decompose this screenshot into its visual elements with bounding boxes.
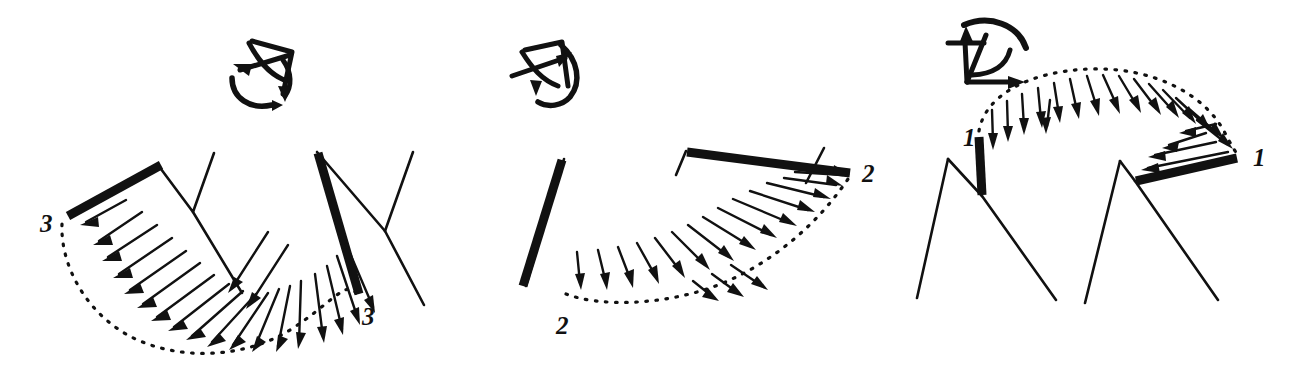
hand-drawn-rotation-figure: 3 3: [0, 0, 1298, 374]
start-label: 1: [963, 124, 976, 151]
end-label: 2: [861, 160, 875, 187]
start-label: 2: [555, 312, 569, 339]
end-label: 1: [1253, 144, 1266, 171]
initial-bar: [979, 137, 982, 195]
end-label: 3: [361, 303, 375, 330]
start-label: 3: [39, 210, 53, 237]
figure-background: [0, 0, 1298, 374]
